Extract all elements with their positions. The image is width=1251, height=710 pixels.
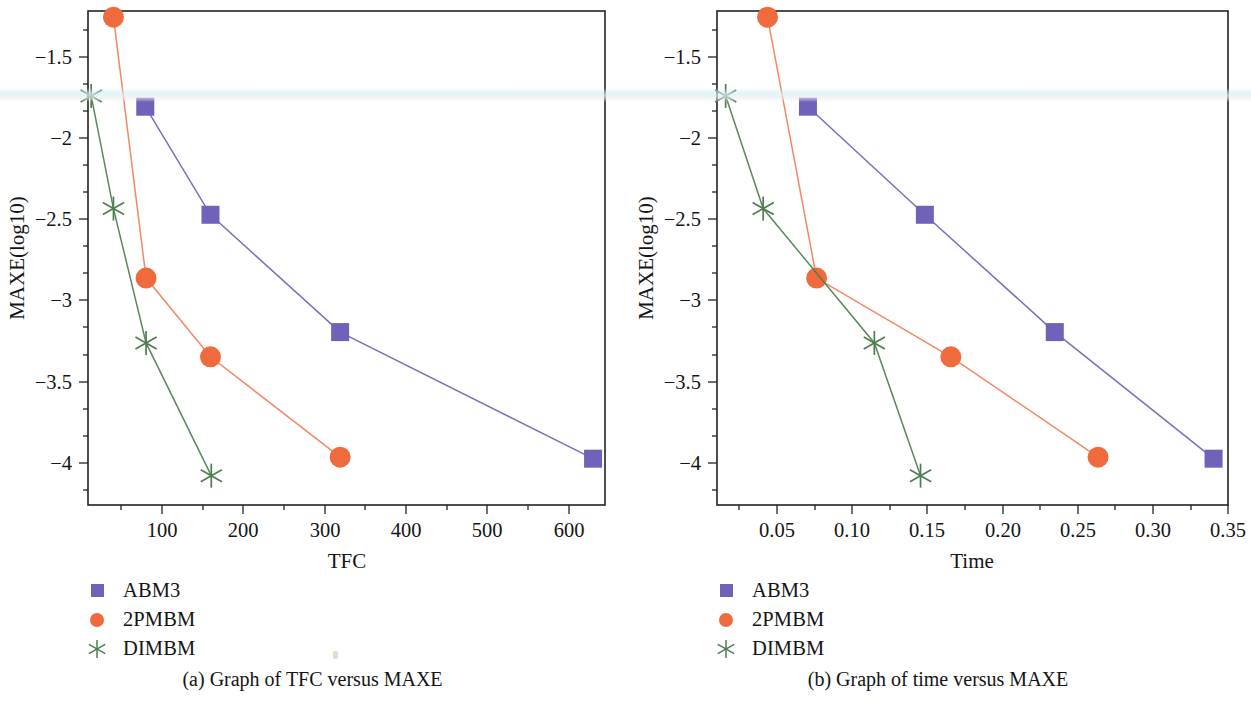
chart-a-series-layer xyxy=(81,7,602,488)
star-marker[interactable] xyxy=(201,464,222,488)
y-tick-label: −2.5 xyxy=(664,208,701,230)
y-axis-title: MAXE(log10) xyxy=(634,196,658,320)
figure-container: −1.5 −2 −2.5 −3 −3.5 −4 100 200 300 400 … xyxy=(0,0,1251,710)
y-tick-label: −2 xyxy=(679,127,701,149)
panel-b: −1.5 −2 −2.5 −3 −3.5 −4 0.05 0.10 0.15 0… xyxy=(625,0,1250,710)
series-line xyxy=(768,17,1099,457)
legend-label: ABM3 xyxy=(752,579,809,602)
star-marker-icon xyxy=(713,638,739,660)
panel-b-caption: (b)Graph of time versus MAXE xyxy=(625,668,1251,691)
y-tick-label: −4 xyxy=(50,452,72,474)
series-line xyxy=(145,107,593,459)
square-marker[interactable] xyxy=(201,206,219,224)
circle-marker[interactable] xyxy=(136,268,157,289)
star-marker[interactable] xyxy=(81,84,102,108)
legend-label: ABM3 xyxy=(123,579,180,602)
star-marker[interactable] xyxy=(103,197,124,221)
legend-label: 2PMBM xyxy=(123,608,195,631)
x-tick-label: 0.35 xyxy=(1210,519,1246,541)
x-tick-label: 0.15 xyxy=(909,519,945,541)
series-2pmbm xyxy=(103,7,351,468)
x-tick-label: 600 xyxy=(554,519,585,541)
square-marker[interactable] xyxy=(136,98,154,116)
star-marker-icon xyxy=(84,638,110,660)
legend-item-dimbm[interactable]: DIMBM xyxy=(84,636,195,661)
series-abm3 xyxy=(136,98,602,468)
series-line xyxy=(808,107,1214,459)
chart-b-y-axis-ticks xyxy=(708,30,717,490)
star-marker[interactable] xyxy=(715,84,736,108)
square-marker[interactable] xyxy=(1205,450,1223,468)
legend-label: DIMBM xyxy=(123,637,195,660)
square-marker[interactable] xyxy=(331,323,349,341)
y-tick-label: −3 xyxy=(50,289,72,311)
y-tick-label: −3.5 xyxy=(664,371,701,393)
chart-a-plot-frame xyxy=(88,11,605,505)
x-tick-label: 500 xyxy=(472,519,503,541)
circle-marker[interactable] xyxy=(806,268,827,289)
legend-item-2pmbm[interactable]: 2PMBM xyxy=(84,607,195,632)
caption-text: Graph of TFC versus MAXE xyxy=(210,668,443,690)
chart-a-x-tick-labels: 100 200 300 400 500 600 xyxy=(147,519,585,541)
x-tick-label: 100 xyxy=(147,519,178,541)
square-marker-icon xyxy=(713,580,739,602)
y-tick-label: −2 xyxy=(50,127,72,149)
square-marker-icon xyxy=(84,580,110,602)
series-2pmbm xyxy=(757,7,1109,468)
y-tick-label: −1.5 xyxy=(35,46,72,68)
square-marker[interactable] xyxy=(584,450,602,468)
caption-text: Graph of time versus MAXE xyxy=(836,668,1068,690)
caption-index: (b) xyxy=(808,668,831,690)
circle-marker-icon xyxy=(713,609,739,631)
caption-index: (a) xyxy=(182,668,204,690)
circle-marker[interactable] xyxy=(940,346,961,367)
y-tick-label: −3 xyxy=(679,289,701,311)
panel-a: −1.5 −2 −2.5 −3 −3.5 −4 100 200 300 400 … xyxy=(0,0,625,710)
square-marker[interactable] xyxy=(916,206,934,224)
star-marker[interactable] xyxy=(135,331,156,355)
circle-marker[interactable] xyxy=(1088,447,1109,468)
legend-item-2pmbm[interactable]: 2PMBM xyxy=(713,607,824,632)
y-tick-label: −1.5 xyxy=(664,46,701,68)
y-tick-label: −3.5 xyxy=(35,371,72,393)
chart-b-canvas: −1.5 −2 −2.5 −3 −3.5 −4 0.05 0.10 0.15 0… xyxy=(625,0,1251,580)
legend-item-dimbm[interactable]: DIMBM xyxy=(713,636,824,661)
chart-b-x-tick-labels: 0.05 0.10 0.15 0.20 0.25 0.30 0.35 xyxy=(759,519,1246,541)
x-tick-label: 0.30 xyxy=(1135,519,1171,541)
page-speck xyxy=(333,651,338,659)
chart-b-legend: ABM3 2PMBM DIMBM xyxy=(713,578,824,661)
legend-label: DIMBM xyxy=(752,637,824,660)
x-tick-label: 0.10 xyxy=(834,519,870,541)
series-line xyxy=(113,17,340,457)
chart-b-series-layer xyxy=(715,7,1223,488)
circle-marker[interactable] xyxy=(757,7,778,28)
y-tick-label: −4 xyxy=(679,452,701,474)
panel-a-caption: (a)Graph of TFC versus MAXE xyxy=(0,668,625,691)
x-tick-label: 0.25 xyxy=(1060,519,1096,541)
circle-marker[interactable] xyxy=(330,447,351,468)
chart-b-y-tick-labels: −1.5 −2 −2.5 −3 −3.5 −4 xyxy=(664,46,701,474)
x-tick-label: 200 xyxy=(228,519,259,541)
y-axis-title: MAXE(log10) xyxy=(5,196,29,320)
star-marker[interactable] xyxy=(910,464,931,488)
chart-a-legend: ABM3 2PMBM DIMBM xyxy=(84,578,195,661)
circle-marker[interactable] xyxy=(200,346,221,367)
chart-a-canvas: −1.5 −2 −2.5 −3 −3.5 −4 100 200 300 400 … xyxy=(0,0,625,580)
chart-a-x-axis-ticks xyxy=(121,505,569,514)
x-tick-label: 300 xyxy=(310,519,341,541)
x-axis-title: TFC xyxy=(328,549,367,573)
x-tick-label: 400 xyxy=(391,519,422,541)
x-tick-label: 0.05 xyxy=(759,519,795,541)
chart-a-y-tick-labels: −1.5 −2 −2.5 −3 −3.5 −4 xyxy=(35,46,72,474)
x-axis-title: Time xyxy=(950,549,994,573)
legend-item-abm3[interactable]: ABM3 xyxy=(713,578,824,603)
legend-item-abm3[interactable]: ABM3 xyxy=(84,578,195,603)
x-tick-label: 0.20 xyxy=(985,519,1021,541)
chart-b-x-axis-ticks xyxy=(739,505,1228,514)
y-tick-label: −2.5 xyxy=(35,208,72,230)
legend-label: 2PMBM xyxy=(752,608,824,631)
circle-marker[interactable] xyxy=(103,7,124,28)
series-abm3 xyxy=(799,98,1223,468)
square-marker[interactable] xyxy=(799,98,817,116)
square-marker[interactable] xyxy=(1046,323,1064,341)
